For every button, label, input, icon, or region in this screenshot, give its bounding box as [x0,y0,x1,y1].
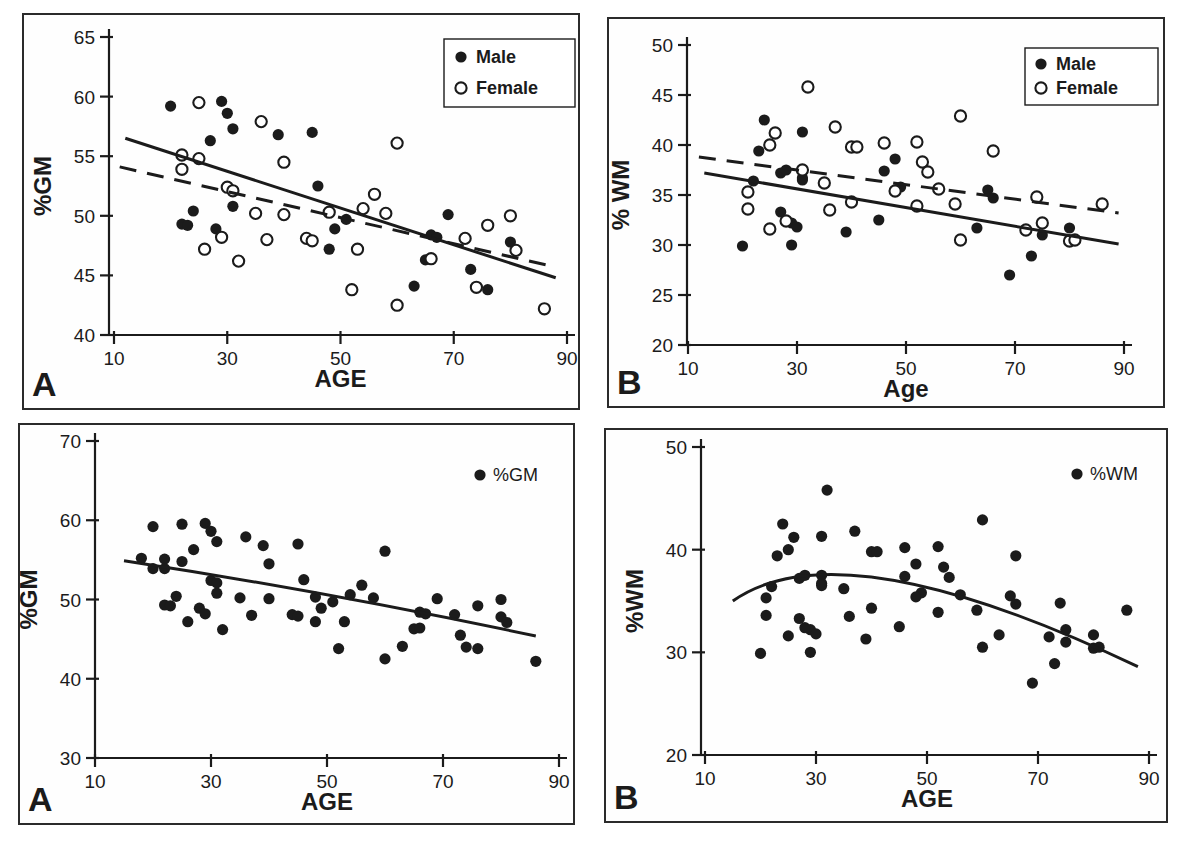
data-point [797,126,808,137]
data-point [1055,598,1066,609]
data-point [307,235,318,246]
data-point [176,519,187,530]
data-point [227,201,238,212]
data-point [234,592,245,603]
data-point [911,136,922,147]
data-point [222,108,233,119]
x-tick-label: 90 [556,348,577,369]
data-point [755,648,766,659]
data-point [165,101,176,112]
data-point [933,541,944,552]
panel-top-left-gm-by-sex: 1030507090404550556065AGE%GMAMaleFemale [22,13,580,410]
data-point [849,526,860,537]
data-point [227,123,238,134]
data-point [171,591,182,602]
data-point [352,244,363,255]
data-point [465,264,476,275]
legend-filled-circle-icon [474,469,485,480]
panel-bottom-right-wm-combined: 103050709020304050AGE%WMB%WM [604,428,1168,823]
x-tick-label: 30 [786,358,807,379]
data-point [759,114,770,125]
data-point [1064,222,1075,233]
fit-line-solid [733,574,1138,666]
data-point [263,593,274,604]
data-point [742,203,753,214]
panel-letter: A [32,365,57,403]
data-point [200,608,211,619]
data-point [176,164,187,175]
data-point [873,214,884,225]
data-point [432,593,443,604]
panel-letter: B [614,778,639,816]
data-point [819,177,830,188]
data-point [298,574,309,585]
data-point [392,300,403,311]
data-point [971,222,982,233]
data-point [460,233,471,244]
legend: MaleFemale [444,39,575,107]
x-tick-label: 10 [694,768,715,789]
data-point [346,284,357,295]
x-tick-label: 10 [103,348,124,369]
data-point [971,605,982,616]
data-point [380,208,391,219]
y-tick-label: 40 [60,669,81,690]
series-gm [136,518,542,667]
y-tick-label: 40 [652,135,673,156]
x-tick-label: 90 [548,771,569,792]
data-point [455,630,466,641]
y-tick-label: 65 [74,27,95,48]
legend-label: %WM [1090,464,1138,484]
legend: %GM [474,465,538,485]
y-tick-label: 45 [652,85,673,106]
data-point [764,223,775,234]
data-point [830,121,841,132]
data-point [988,145,999,156]
legend-filled-circle-icon [1035,58,1046,69]
data-point [379,653,390,664]
data-point [1027,678,1038,689]
data-point [312,180,323,191]
data-point [356,580,367,591]
legend-label: %GM [493,465,538,485]
data-point [240,531,251,542]
data-point [816,580,827,591]
y-tick-label: 50 [652,35,673,56]
y-tick-label: 20 [652,335,673,356]
data-point [772,550,783,561]
figure-grid: 1030507090404550556065AGE%GMAMaleFemale … [0,0,1183,849]
x-tick-label: 70 [1027,768,1048,789]
data-point [505,210,516,221]
chart-top-left: 1030507090404550556065AGE%GMAMaleFemale [24,15,578,408]
data-point [461,642,472,653]
data-point [472,643,483,654]
series-male [737,114,1075,280]
x-tick-label: 10 [677,358,698,379]
y-tick-label: 70 [60,431,81,452]
data-point [261,234,272,245]
data-point [482,220,493,231]
chart-bottom-left: 10305070903040506070AGE%GMA%GM [20,425,573,823]
data-point [802,81,813,92]
data-point [182,616,193,627]
y-tick-label: 20 [666,745,687,766]
data-point [216,232,227,243]
data-point [292,538,303,549]
legend-label: Male [476,47,516,67]
data-point [1060,637,1071,648]
chart-top-right: 103050709020253035404550Age% WMBMaleFema… [609,19,1163,406]
data-point [1037,217,1048,228]
data-point [910,591,921,602]
y-axis-label: % WM [609,160,634,231]
x-tick-label: 30 [217,348,238,369]
legend-open-circle-icon [455,82,466,93]
y-tick-label: 45 [74,265,95,286]
data-point [510,245,521,256]
data-point [742,186,753,197]
data-point [165,600,176,611]
data-point [910,558,921,569]
legend-open-circle-icon [1035,82,1046,93]
data-point [211,588,222,599]
x-tick-label: 30 [200,771,221,792]
data-point [414,622,425,633]
